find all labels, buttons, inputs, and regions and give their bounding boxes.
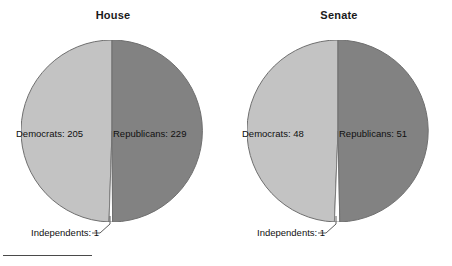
footer-rule xyxy=(3,255,92,256)
chart-title-house: House xyxy=(0,8,226,22)
pie-chart-figure: House Democrats: 205 Republicans: 229 In… xyxy=(0,0,452,266)
chart-title-senate: Senate xyxy=(226,8,452,22)
chart-panel-house: House Democrats: 205 Republicans: 229 In… xyxy=(0,0,226,266)
chart-panel-senate: Senate Democrats: 48 Republicans: 51 Ind… xyxy=(226,0,452,266)
pie-label-independents: Independents: 1 xyxy=(31,227,99,238)
pie-label-democrats: Democrats: 48 xyxy=(242,128,304,139)
pie-label-republicans: Republicans: 229 xyxy=(113,128,186,139)
pie-label-republicans: Republicans: 51 xyxy=(339,128,407,139)
pie-label-democrats: Democrats: 205 xyxy=(16,128,83,139)
pie-label-independents: Independents: 1 xyxy=(257,227,325,238)
